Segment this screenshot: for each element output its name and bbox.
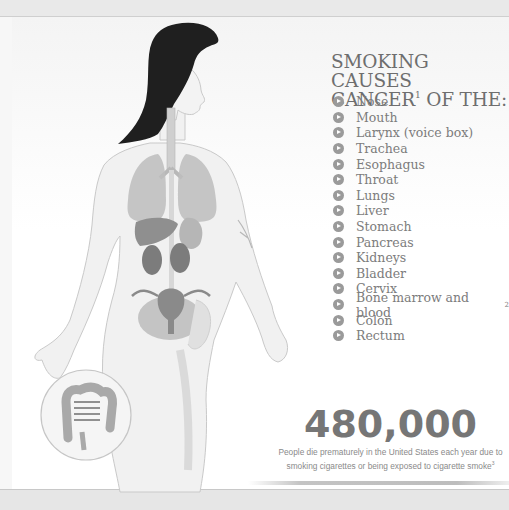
list-item: Kidneys (333, 250, 509, 266)
death-statistic: 480,000 People die prematurely in the Un… (272, 404, 509, 472)
play-bullet-icon (333, 205, 344, 216)
play-bullet-icon (333, 268, 344, 279)
list-item: Throat (333, 172, 509, 188)
play-bullet-icon (333, 127, 344, 138)
list-item: Stomach (333, 219, 509, 235)
list-item: Pancreas (333, 234, 509, 250)
play-bullet-icon (333, 252, 344, 263)
play-bullet-icon (333, 237, 344, 248)
stat-caption: People die prematurely in the United Sta… (272, 447, 509, 472)
play-bullet-icon (333, 221, 344, 232)
list-item: Bone marrow and blood2 (333, 297, 509, 313)
play-bullet-icon (333, 174, 344, 185)
list-item: Rectum (333, 328, 509, 344)
list-item: Mouth (333, 110, 509, 126)
list-item: Esophagus (333, 156, 509, 172)
play-bullet-icon (333, 159, 344, 170)
list-item: Larynx (voice box) (333, 125, 509, 141)
list-item: Lungs (333, 188, 509, 204)
colon-inset-icon (41, 370, 131, 460)
trachea-icon (167, 108, 175, 170)
right-kidney-icon (170, 243, 190, 273)
divider-rule (248, 481, 509, 485)
cancer-sites-list: Nose Mouth Larynx (voice box) Trachea Es… (333, 94, 509, 344)
play-bullet-icon (333, 190, 344, 201)
list-item: Trachea (333, 141, 509, 157)
footnote-marker: 2 (505, 301, 509, 309)
play-bullet-icon (333, 143, 344, 154)
list-item: Bladder (333, 266, 509, 282)
list-item: Liver (333, 203, 509, 219)
stat-number: 480,000 (272, 404, 509, 444)
footnote-marker: 3 (492, 460, 495, 466)
play-bullet-icon (333, 330, 344, 341)
list-item: Nose (333, 94, 509, 110)
play-bullet-icon (333, 96, 344, 107)
play-bullet-icon (333, 112, 344, 123)
left-kidney-icon (142, 245, 162, 275)
play-bullet-icon (333, 283, 344, 294)
play-bullet-icon (333, 299, 344, 310)
play-bullet-icon (333, 315, 344, 326)
heading-line-1: SMOKING CAUSES (331, 52, 509, 90)
